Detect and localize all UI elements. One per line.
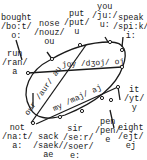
word-pen: pen /pen/ e xyxy=(95,118,121,145)
word-put: put /put/ u xyxy=(64,10,90,37)
word-sir: sir /se:r/ /soer/ e: =oe xyxy=(63,125,87,160)
word-eight: eight /ejt/ ej xyxy=(118,124,144,151)
word-it: it /yt/ y xyxy=(124,86,144,113)
word-run: run /ran/ a xyxy=(2,50,28,77)
word-sack: sack /saek/ ae xyxy=(33,133,64,160)
word-bought: bought /bo:t/ o: xyxy=(1,14,32,41)
word-speak: speak /spi:k/ i: xyxy=(113,14,147,41)
word-not: not /na:t/ a: xyxy=(2,124,33,151)
word-nose: nose /nouz/ ou xyxy=(34,20,65,47)
